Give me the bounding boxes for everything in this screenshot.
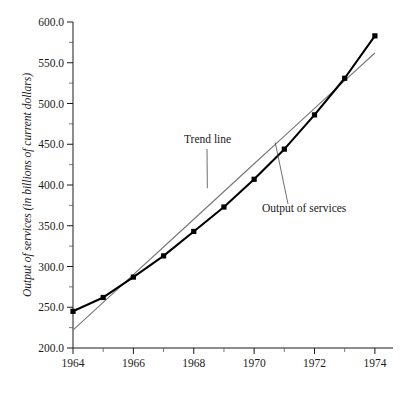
output-of-services-path [73, 36, 375, 311]
data-point-marker [221, 204, 226, 209]
y-axis-tick-labels: 200.0250.0300.0350.0400.0450.0500.0550.0… [38, 16, 64, 354]
data-point-marker [161, 253, 166, 258]
chart-annotations: Trend lineOutput of services [184, 133, 347, 215]
data-point-marker [131, 274, 136, 279]
x-tick-label: 1974 [363, 357, 386, 369]
series-output-of-services [73, 36, 375, 311]
data-point-marker [282, 147, 287, 152]
y-tick-label: 200.0 [38, 342, 64, 354]
x-tick-label: 1970 [243, 357, 266, 369]
data-point-marker [372, 33, 377, 38]
data-point-marker [191, 229, 196, 234]
line-chart: 196419661968197019721974 200.0250.0300.0… [0, 0, 416, 394]
axes [73, 22, 393, 348]
axis-ticks [67, 22, 375, 354]
y-tick-label: 300.0 [38, 261, 64, 273]
y-tick-label: 250.0 [38, 301, 64, 313]
y-tick-label: 400.0 [38, 179, 64, 191]
x-tick-label: 1972 [303, 357, 326, 369]
y-tick-label: 450.0 [38, 138, 64, 150]
y-axis-title: Output of services (in billions of curre… [21, 73, 34, 297]
data-point-marker [252, 177, 257, 182]
data-point-markers [70, 33, 377, 314]
annotation-output-of-services: Output of services [262, 202, 347, 215]
axis-frame [73, 22, 393, 348]
x-tick-label: 1968 [182, 357, 205, 369]
y-tick-label: 500.0 [38, 98, 64, 110]
y-tick-label: 550.0 [38, 57, 64, 69]
x-tick-label: 1966 [122, 357, 145, 369]
chart-figure: 196419661968197019721974 200.0250.0300.0… [0, 0, 416, 394]
x-tick-label: 1964 [62, 357, 85, 369]
data-point-marker [70, 309, 75, 314]
annotation-trend-line: Trend line [184, 133, 231, 145]
data-point-marker [342, 76, 347, 81]
data-point-marker [312, 112, 317, 117]
y-tick-label: 600.0 [38, 16, 64, 28]
x-axis-tick-labels: 196419661968197019721974 [62, 357, 387, 369]
data-point-marker [101, 295, 106, 300]
y-tick-label: 350.0 [38, 220, 64, 232]
